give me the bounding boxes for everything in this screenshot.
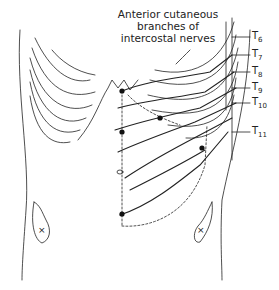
label-t7: T7 [252, 48, 263, 62]
leader-to-title [176, 50, 190, 64]
label-t8: T8 [252, 65, 263, 79]
label-t10: T10 [252, 96, 267, 110]
torso-outline-left [19, 30, 26, 280]
label-t9: T9 [252, 81, 263, 95]
left-inguinal [33, 202, 50, 243]
title-line-3: intercostal nerves [103, 32, 233, 44]
right-inguinal [194, 202, 212, 242]
lateral-dashed [122, 125, 207, 226]
nerve-branches [115, 55, 236, 215]
label-t6: T6 [252, 30, 263, 44]
title-line-2: branches of [103, 20, 233, 32]
intercostal-nerves-diagram: Anterior cutaneous branches of intercost… [0, 0, 279, 290]
left-ribs [30, 38, 95, 143]
right-asis-marker: × [197, 225, 205, 235]
torso-outline-right [221, 30, 250, 280]
title-line-1: Anterior cutaneous [103, 8, 233, 20]
left-asis-marker: × [38, 225, 46, 235]
nerve-points [119, 88, 204, 216]
label-t11: T11 [252, 125, 267, 139]
figure-title: Anterior cutaneous branches of intercost… [103, 8, 233, 44]
